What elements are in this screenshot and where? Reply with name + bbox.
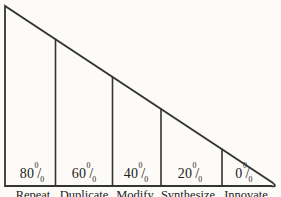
percent-sub-zero: 0 <box>249 175 253 184</box>
triangle-percentage-diagram: 800/0 600/0 400/0 200/0 00/0 Repeat Dupl… <box>0 0 281 197</box>
percent-sub-zero: 0 <box>92 175 96 184</box>
segment-label-40: 400/0 <box>124 162 149 187</box>
caption-innovate: Innovate <box>224 188 268 197</box>
percent-sub-zero: 0 <box>40 175 44 184</box>
percent-sub-zero: 0 <box>198 175 202 184</box>
triangle-outline <box>5 6 275 186</box>
caption-synthesize: Synthesize <box>161 188 215 197</box>
percent-value: 40 <box>124 166 138 181</box>
percent-value: 80 <box>20 166 34 181</box>
percent-value: 0 <box>235 166 242 181</box>
caption-duplicate: Duplicate <box>60 188 109 197</box>
percent-value: 60 <box>72 166 86 181</box>
percent-value: 20 <box>178 166 192 181</box>
percent-sub-zero: 0 <box>144 175 148 184</box>
percent-sup-zero: 0 <box>139 161 143 170</box>
segment-label-80: 800/0 <box>20 162 45 187</box>
caption-modify: Modify <box>116 188 154 197</box>
percent-sup-zero: 0 <box>193 161 197 170</box>
segment-label-60: 600/0 <box>72 162 97 187</box>
percent-sup-zero: 0 <box>35 161 39 170</box>
segment-label-0: 00/0 <box>235 162 252 187</box>
segment-label-20: 200/0 <box>178 162 203 187</box>
caption-repeat: Repeat <box>16 188 51 197</box>
percent-sup-zero: 0 <box>87 161 91 170</box>
percent-sup-zero: 0 <box>243 161 247 170</box>
